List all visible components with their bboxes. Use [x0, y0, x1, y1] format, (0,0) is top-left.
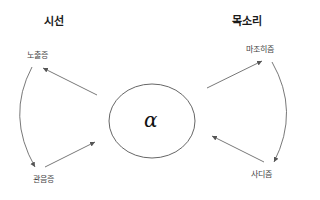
heading-voice: 목소리 — [232, 12, 262, 28]
heading-gaze: 시선 — [44, 12, 64, 28]
label-masochism: 마조히즘 — [246, 43, 274, 54]
label-sadism: 사디즘 — [251, 168, 272, 179]
arrow-curve-right — [272, 62, 287, 162]
alpha-symbol: α — [144, 108, 158, 132]
arrow-curve-left — [20, 67, 35, 167]
label-voyeurism: 관음증 — [33, 173, 54, 184]
label-exhibitionism: 노출증 — [27, 49, 48, 60]
arrow-voyeurism-to-center — [45, 142, 95, 167]
arrow-center-to-exhibitionism — [43, 68, 97, 95]
arrow-center-to-masochism — [207, 61, 262, 88]
arrow-sadism-to-center — [212, 136, 264, 162]
